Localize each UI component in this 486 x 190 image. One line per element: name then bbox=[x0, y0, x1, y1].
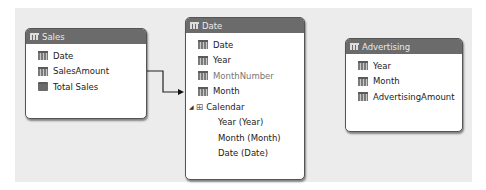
table-header[interactable]: Advertising bbox=[346, 39, 462, 54]
field-row[interactable]: Year bbox=[186, 53, 304, 69]
table-header[interactable]: Date bbox=[186, 18, 304, 33]
field-row[interactable]: Month bbox=[186, 84, 304, 100]
field-label: Month bbox=[213, 86, 240, 96]
table-title: Sales bbox=[42, 32, 65, 42]
column-icon bbox=[358, 92, 368, 101]
hierarchy-icon: ⊞ bbox=[196, 102, 204, 112]
expand-triangle-icon[interactable]: ◢ bbox=[189, 103, 194, 110]
field-row-hidden[interactable]: MonthNumber bbox=[186, 68, 304, 84]
table-title: Advertising bbox=[362, 42, 410, 52]
relationship-line[interactable] bbox=[145, 71, 178, 92]
table-date[interactable]: Date Date Year MonthNumber Month ◢ ⊞ Cal… bbox=[185, 17, 305, 180]
field-row[interactable]: Month bbox=[346, 74, 462, 90]
column-icon bbox=[38, 67, 48, 76]
column-icon bbox=[358, 61, 368, 70]
field-row[interactable]: AdvertisingAmount bbox=[346, 89, 462, 105]
table-icon bbox=[30, 33, 39, 40]
field-row[interactable]: Year bbox=[346, 58, 462, 74]
field-label: Total Sales bbox=[53, 82, 98, 92]
level-label: Year (Year) bbox=[218, 117, 263, 127]
field-label: Year bbox=[373, 61, 391, 71]
level-label: Month (Month) bbox=[218, 133, 281, 143]
table-header[interactable]: Sales bbox=[26, 29, 146, 44]
column-icon bbox=[38, 51, 48, 60]
column-icon bbox=[198, 71, 208, 80]
field-row[interactable]: Total Sales bbox=[26, 79, 146, 95]
table-title: Date bbox=[202, 21, 222, 31]
field-label: SalesAmount bbox=[53, 66, 109, 76]
table-sales[interactable]: Sales Date SalesAmount Total Sales bbox=[25, 28, 147, 119]
hierarchy-label: Calendar bbox=[206, 102, 244, 112]
column-icon bbox=[358, 77, 368, 86]
hierarchy-row[interactable]: ◢ ⊞ Calendar bbox=[186, 99, 304, 115]
table-advertising[interactable]: Advertising Year Month AdvertisingAmount bbox=[345, 38, 463, 132]
measure-icon bbox=[38, 82, 48, 91]
field-label: MonthNumber bbox=[213, 71, 274, 81]
column-icon bbox=[198, 40, 208, 49]
field-label: Year bbox=[213, 55, 231, 65]
field-label: AdvertisingAmount bbox=[373, 92, 455, 102]
field-label: Date bbox=[53, 51, 73, 61]
hierarchy-level[interactable]: Year (Year) bbox=[186, 115, 304, 131]
hierarchy-level[interactable]: Month (Month) bbox=[186, 130, 304, 146]
column-icon bbox=[198, 56, 208, 65]
table-icon bbox=[350, 43, 359, 50]
level-label: Date (Date) bbox=[218, 148, 268, 158]
field-label: Month bbox=[373, 76, 400, 86]
relationship-arrowhead bbox=[178, 89, 184, 95]
field-label: Date bbox=[213, 40, 233, 50]
hierarchy-level[interactable]: Date (Date) bbox=[186, 146, 304, 162]
field-row[interactable]: Date bbox=[186, 37, 304, 53]
table-icon bbox=[190, 22, 199, 29]
field-row[interactable]: SalesAmount bbox=[26, 64, 146, 80]
column-icon bbox=[198, 87, 208, 96]
field-row[interactable]: Date bbox=[26, 48, 146, 64]
